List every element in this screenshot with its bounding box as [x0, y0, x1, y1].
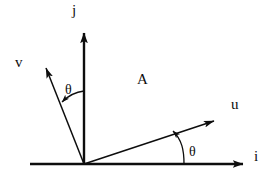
theta-top-label: θ — [65, 83, 72, 97]
v-vector-label: v — [15, 55, 23, 70]
vector-diagram-figure: i j u v A θ θ — [0, 0, 273, 184]
u-vector-label: u — [231, 97, 239, 112]
i-axis-label: i — [254, 149, 258, 164]
j-axis-label: j — [72, 3, 76, 18]
vector-diagram-canvas — [0, 0, 273, 184]
theta-bottom-label: θ — [189, 145, 196, 159]
region-a-label: A — [137, 72, 148, 87]
theta-bottom-arc — [173, 131, 184, 164]
